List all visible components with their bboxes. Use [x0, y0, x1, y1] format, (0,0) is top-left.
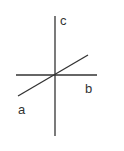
label-a: a	[18, 102, 26, 117]
label-c: c	[60, 13, 67, 28]
label-b: b	[85, 81, 92, 96]
intersecting-lines-diagram: c b a	[0, 0, 124, 151]
